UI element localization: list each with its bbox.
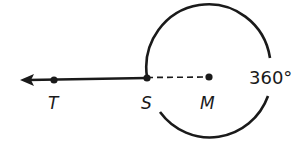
- segment-sm-dashed: [147, 77, 209, 78]
- ray-st: [28, 78, 147, 80]
- point-m: [205, 73, 212, 80]
- label-s: S: [141, 93, 152, 113]
- rotation-diagram: T S M 360°: [0, 0, 306, 147]
- point-t: [50, 76, 57, 83]
- point-s: [143, 74, 150, 81]
- label-angle-360: 360°: [249, 67, 292, 88]
- label-m: M: [200, 93, 215, 113]
- diagram-canvas: T S M 360°: [0, 0, 306, 147]
- label-t: T: [48, 93, 60, 113]
